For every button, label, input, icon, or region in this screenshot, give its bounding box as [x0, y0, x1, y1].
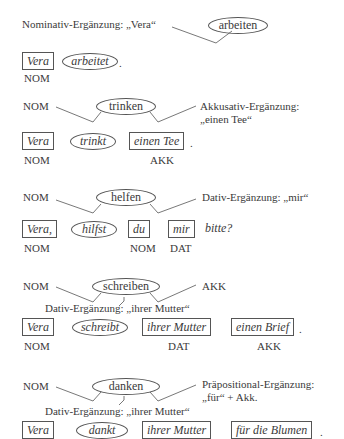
verb-ellipse: arbeiten	[208, 17, 268, 34]
case-label: NOM	[24, 154, 50, 167]
verb-ellipse: danken	[92, 378, 160, 395]
case-label: DAT	[170, 242, 191, 255]
case-label: NOM	[23, 280, 49, 293]
nominative-complement-label: Nominativ-Ergänzung: „Vera“	[22, 18, 156, 31]
accusative-complement-label: Akkusativ-Ergänzung:	[200, 100, 299, 113]
case-label: NOM	[23, 100, 49, 113]
verb-ellipse: dankt	[76, 422, 128, 439]
object-box: einen Tee	[129, 132, 184, 150]
subject-box: Vera	[22, 318, 54, 336]
trailing-text: bitte?	[205, 222, 232, 235]
verb-ellipse: schreiben	[92, 278, 160, 295]
prepositional-object-box: für die Blumen	[231, 421, 312, 439]
case-label: DAT	[168, 340, 189, 353]
case-label: NOM	[24, 72, 50, 85]
dative-complement-label: Dativ-Ergänzung: „ihrer Mutter“	[45, 405, 190, 418]
dative-complement-label: Dativ-Ergänzung: „ihrer Mutter“	[45, 302, 190, 315]
dative-complement-label: Dativ-Ergänzung: „mir“	[202, 191, 308, 204]
dative-object-box: ihrer Mutter	[142, 318, 211, 336]
accusative-object-box: einen Brief	[231, 318, 294, 336]
case-label: NOM	[24, 242, 50, 255]
case-label: AKK	[257, 340, 281, 353]
verb-ellipse: hilfst	[71, 221, 117, 238]
case-label: AKK	[150, 154, 174, 167]
subject-box: Vera	[22, 52, 54, 70]
object-box: mir	[168, 220, 195, 238]
accusative-complement-value: „einen Tee“	[200, 113, 252, 126]
case-label: NOM	[23, 191, 49, 204]
punctuation: .	[320, 426, 323, 439]
verb-ellipse: schreibt	[72, 319, 128, 336]
verb-ellipse: trinkt	[70, 133, 116, 150]
case-label: NOM	[24, 340, 50, 353]
verb-ellipse: helfen	[96, 189, 156, 206]
verb-ellipse: arbeitet	[62, 53, 118, 70]
subject-box: Vera,	[22, 220, 57, 238]
case-label: NOM	[130, 242, 156, 255]
punctuation: .	[190, 137, 193, 150]
case-label: AKK	[202, 280, 226, 293]
prepositional-complement-value: „für“ + Akk.	[202, 391, 257, 404]
verb-ellipse: trinken	[96, 98, 156, 115]
punctuation: .	[299, 323, 302, 336]
case-label: NOM	[23, 380, 49, 393]
prepositional-complement-label: Präpositional-Ergänzung:	[202, 378, 314, 391]
punctuation: .	[119, 57, 122, 70]
subject-box: Vera	[22, 132, 54, 150]
subject-box: Vera	[22, 421, 54, 439]
dative-object-box: ihrer Mutter	[142, 421, 211, 439]
subject-box: du	[128, 220, 150, 238]
